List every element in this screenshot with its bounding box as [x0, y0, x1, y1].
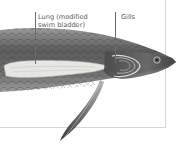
lungfish-diagram: Lung (modified swim bladder) Gills [0, 0, 177, 146]
fish-illustration [0, 0, 177, 146]
gills-label: Gills [121, 13, 135, 21]
lung-label-line1: Lung (modified [38, 13, 88, 21]
gills-leader-line [115, 12, 116, 64]
pectoral-fin [60, 80, 104, 141]
lung-label: Lung (modified swim bladder) [38, 13, 88, 29]
lung-leader-line [35, 12, 36, 64]
lung-label-line2: swim bladder) [38, 21, 88, 29]
